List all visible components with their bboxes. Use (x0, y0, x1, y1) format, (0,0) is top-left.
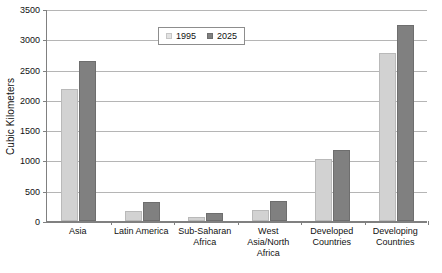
bar-chart: Cubic Kilometers 05001000150020002500300… (0, 0, 442, 273)
y-axis-tick (43, 222, 47, 223)
y-axis-title-text: Cubic Kilometers (6, 77, 17, 154)
bar (143, 202, 160, 221)
x-axis-tick (174, 221, 175, 225)
bar (333, 150, 350, 221)
y-axis-tick (43, 10, 47, 11)
y-axis-tick-label: 0 (35, 217, 40, 227)
gridline (47, 161, 427, 162)
gridline (47, 10, 427, 11)
y-axis-tick-label: 500 (25, 187, 40, 197)
y-axis-tick-label: 1000 (20, 156, 40, 166)
y-axis-tick-label: 1500 (20, 126, 40, 136)
x-axis-tick (301, 221, 302, 225)
x-axis-label: West Asia/NorthAfrica (237, 226, 301, 259)
bar (252, 210, 269, 222)
bar (379, 53, 396, 221)
y-axis-tick (43, 71, 47, 72)
x-axis-label: Sub-SaharanAfrica (173, 226, 237, 248)
legend-entry: 1995 (166, 31, 196, 41)
y-axis-tick-label: 2500 (20, 66, 40, 76)
gridline (47, 192, 427, 193)
x-axis-tick (111, 221, 112, 225)
x-axis-label: Asia (46, 226, 110, 237)
x-axis-label: Latin America (110, 226, 174, 237)
x-axis-label: DevelopedCountries (300, 226, 364, 248)
x-axis-label: DevelopingCountries (364, 226, 428, 248)
bar (270, 201, 287, 221)
bar (188, 217, 205, 221)
legend-swatch-icon (207, 33, 213, 39)
legend-label: 2025 (217, 31, 237, 41)
gridline (47, 101, 427, 102)
bar (397, 25, 414, 221)
y-axis-tick (43, 161, 47, 162)
x-axis-tick (365, 221, 366, 225)
y-axis-tick-label: 3500 (20, 5, 40, 15)
gridline (47, 71, 427, 72)
y-axis-tick (43, 192, 47, 193)
y-axis-tick (43, 40, 47, 41)
bar-group (252, 10, 287, 221)
bar-group (125, 10, 160, 221)
gridline (47, 131, 427, 132)
x-axis-labels: AsiaLatin AmericaSub-SaharanAfricaWest A… (46, 226, 427, 270)
bar (206, 213, 223, 221)
bar (61, 89, 78, 221)
x-axis-tick (428, 221, 429, 225)
bar (315, 159, 332, 221)
y-axis-tick-label: 3000 (20, 35, 40, 45)
legend-swatch-icon (166, 33, 172, 39)
legend-entry: 2025 (207, 31, 237, 41)
bar-group (315, 10, 350, 221)
y-axis-tick (43, 101, 47, 102)
legend-label: 1995 (176, 31, 196, 41)
bar (125, 211, 142, 221)
bar-group (379, 10, 414, 221)
bar (79, 61, 96, 222)
chart-legend: 19952025 (158, 27, 245, 45)
x-axis-tick (238, 221, 239, 225)
y-axis-title: Cubic Kilometers (0, 0, 22, 232)
bar-group (61, 10, 96, 221)
y-axis-tick (43, 131, 47, 132)
y-axis-tick-label: 2000 (20, 96, 40, 106)
